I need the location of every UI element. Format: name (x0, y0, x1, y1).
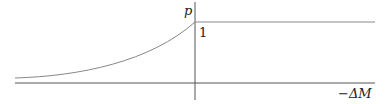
plot-canvas (0, 0, 390, 104)
exponential-curve (15, 22, 195, 78)
x-axis-label: −ΔM (338, 86, 372, 101)
y-axis-label: p (184, 3, 192, 18)
level-label: 1 (199, 25, 207, 40)
